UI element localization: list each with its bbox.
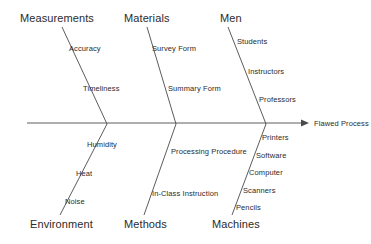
bones-group xyxy=(60,27,266,215)
spine-arrowhead xyxy=(301,120,309,127)
cause-label-accuracy: Accuracy xyxy=(69,45,101,53)
cause-label-printers: Printers xyxy=(262,134,289,142)
category-label-methods: Methods xyxy=(124,219,167,230)
cause-label-professors: Professors xyxy=(259,96,296,104)
cause-label-heat: Heat xyxy=(76,170,92,178)
cause-label-computer: Computer xyxy=(249,169,283,177)
category-label-measurements: Measurements xyxy=(20,13,94,24)
category-label-machines: Machines xyxy=(212,219,260,230)
cause-label-survey-form: Survey Form xyxy=(152,45,196,53)
cause-label-summary-form: Summary Form xyxy=(168,85,221,93)
effect-label: Flawed Process xyxy=(314,120,369,128)
category-bone-measurements xyxy=(62,27,107,124)
cause-label-students: Students xyxy=(237,38,267,46)
cause-label-scanners: Scanners xyxy=(243,187,276,195)
cause-label-humidity: Humidity xyxy=(87,141,117,149)
cause-label-pencils: Pencils xyxy=(236,204,261,212)
category-label-environment: Environment xyxy=(30,219,93,230)
cause-label-noise: Noise xyxy=(65,198,85,206)
cause-label-processing-procedure: Processing Procedure xyxy=(171,148,247,156)
category-label-materials: Materials xyxy=(124,13,170,24)
cause-label-instructors: Instructors xyxy=(248,68,284,76)
cause-label-software: Software xyxy=(256,152,286,160)
fishbone-diagram: MeasurementsAccuracyTimelinessMaterialsS… xyxy=(0,0,371,244)
cause-label-in-class-instruction: In-Class Instruction xyxy=(152,190,218,198)
cause-label-timeliness: Timeliness xyxy=(83,85,120,93)
category-label-men: Men xyxy=(220,13,242,24)
category-bone-materials xyxy=(147,27,176,124)
category-bone-methods xyxy=(144,124,176,215)
